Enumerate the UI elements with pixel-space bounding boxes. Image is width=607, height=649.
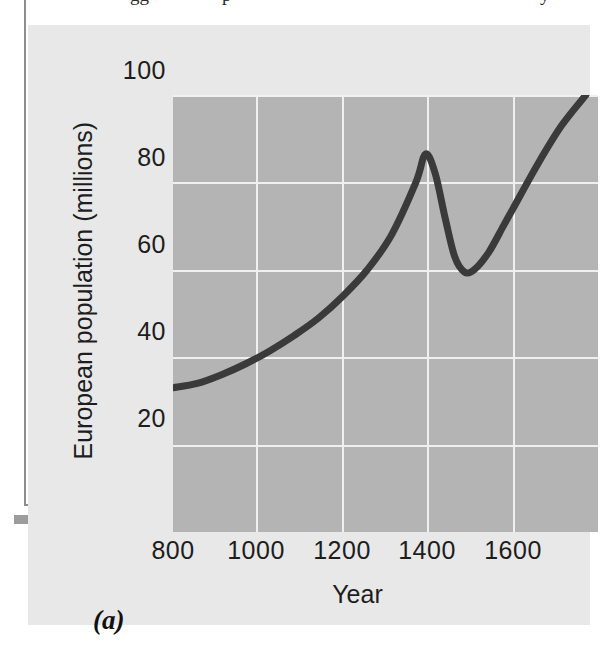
figure-panel: 100 80 60 40 20 European population (mil… [28, 25, 590, 625]
y-tick-label-20: 20 [137, 406, 166, 431]
plot-area [173, 95, 598, 532]
y-tick-label-80: 80 [137, 145, 166, 170]
population-curve-path [173, 95, 586, 388]
page-top-text-fragments: gg p y [40, 0, 600, 9]
y-axis-title: European population (millions) [69, 130, 98, 460]
y-tick-label-40: 40 [137, 319, 166, 344]
text-fragment-3: y [540, 0, 550, 6]
x-axis-title: Year [145, 580, 570, 609]
x-tick-label-1600: 1600 [458, 538, 568, 563]
population-curve [173, 95, 598, 532]
text-fragment-2: p [222, 0, 232, 6]
panel-letter: (a) [93, 605, 124, 636]
text-fragment-1: gg [130, 0, 149, 6]
page-margin-rule [24, 0, 26, 506]
y-tick-label-100: 100 [123, 58, 166, 83]
y-axis-tick-labels: 100 80 60 40 20 [88, 25, 166, 625]
y-tick-label-60: 60 [137, 232, 166, 257]
